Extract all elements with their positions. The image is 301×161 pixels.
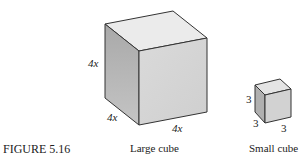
- small-cube-depth-label: 3: [253, 118, 259, 129]
- small-cube-front-face: [265, 89, 291, 123]
- large-cube-height-label: 4x: [88, 58, 98, 69]
- small-cube-height-label: 3: [246, 94, 252, 105]
- figure-label: FIGURE 5.16: [3, 143, 70, 155]
- small-cube-caption: Small cube: [249, 143, 298, 154]
- large-cube-width-label: 4x: [172, 123, 182, 134]
- cubes-diagram: [0, 0, 301, 161]
- small-cube: [255, 79, 291, 123]
- small-cube-width-label: 3: [281, 123, 287, 134]
- large-cube-depth-label: 4x: [107, 112, 117, 123]
- large-cube-front-face: [139, 38, 207, 125]
- large-cube: [105, 11, 207, 125]
- large-cube-caption: Large cube: [130, 143, 179, 154]
